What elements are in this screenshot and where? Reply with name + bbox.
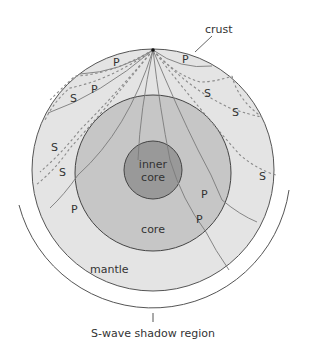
s-wave-label: S	[51, 141, 58, 154]
diagram-canvas: crust inner core core mantle S-wave shad…	[0, 0, 311, 357]
core-label: core	[141, 223, 165, 236]
p-wave-label: P	[71, 203, 78, 216]
crust-leader-line	[195, 36, 212, 52]
p-wave-label: P	[201, 188, 208, 201]
s-wave-label: S	[232, 106, 239, 119]
s-wave-label: S	[204, 87, 211, 100]
earth-cross-section-diagram: crust inner core core mantle S-wave shad…	[0, 0, 311, 357]
p-wave-label: P	[91, 83, 98, 96]
p-wave-label: P	[182, 53, 189, 66]
p-wave-label: P	[113, 56, 120, 69]
mantle-label: mantle	[90, 263, 129, 276]
p-wave-label: P	[196, 213, 203, 226]
s-wave-label: S	[259, 170, 266, 183]
inner-core-label-line1: inner	[139, 158, 168, 171]
inner-core-label-line2: core	[141, 171, 165, 184]
s-wave-label: S	[70, 92, 77, 105]
crust-label: crust	[205, 23, 233, 36]
earthquake-focus-icon	[151, 48, 155, 52]
shadow-region-label: S-wave shadow region	[91, 327, 215, 340]
s-wave-label: S	[59, 166, 66, 179]
